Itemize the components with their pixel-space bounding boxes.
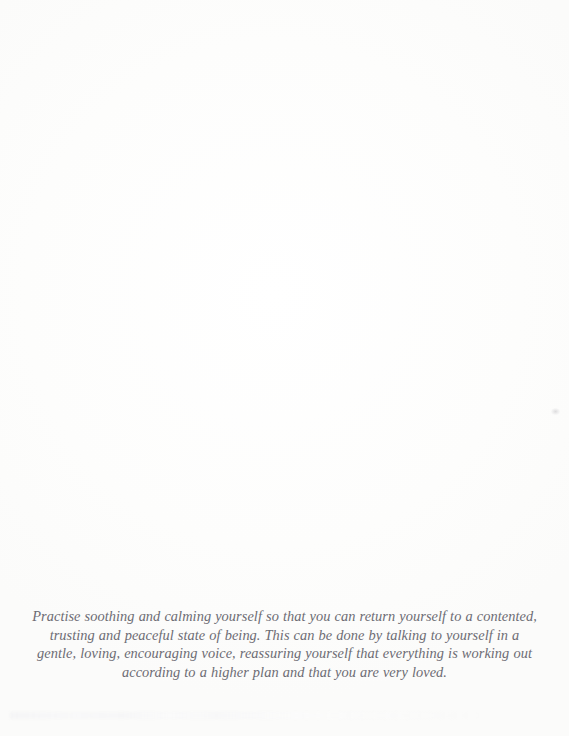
scanned-page: Practise soothing and calming yourself s… [0, 0, 569, 736]
passage-line: trusting and peaceful state of being. Th… [22, 626, 547, 645]
passage-text-block: Practise soothing and calming yourself s… [22, 607, 547, 681]
passage-line: Practise soothing and calming yourself s… [22, 607, 547, 626]
passage-line: according to a higher plan and that you … [22, 663, 547, 682]
passage-line: gentle, loving, encouraging voice, reass… [22, 644, 547, 663]
scan-speck-artifact [551, 408, 560, 415]
page-bleed-through-artifact [10, 712, 480, 719]
